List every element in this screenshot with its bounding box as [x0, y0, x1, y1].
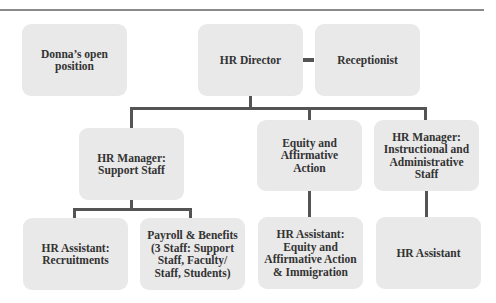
- connector-to-asst-recruit: [73, 208, 76, 218]
- node-label: HR Assistant: [396, 247, 460, 260]
- top-rule: [0, 9, 484, 11]
- connector-to-mgr-instr: [424, 107, 427, 120]
- node-label: HR Assistant: Recruitments: [41, 242, 109, 267]
- connector-to-payroll: [189, 208, 192, 218]
- connector-level2-horizontal: [130, 107, 427, 110]
- node-equity-affirmative-action: Equity and Affirmative Action: [257, 120, 362, 191]
- connector-level3-horizontal: [73, 208, 192, 211]
- node-donna-open-position: Donna’s open position: [22, 24, 127, 96]
- node-hr-assistant-equity: HR Assistant: Equity and Affirmative Act…: [258, 217, 363, 289]
- connector-instr-to-asst: [425, 191, 428, 217]
- node-receptionist: Receptionist: [315, 24, 420, 96]
- node-label: Receptionist: [337, 54, 398, 67]
- node-hr-assistant: HR Assistant: [376, 217, 481, 289]
- node-hr-assistant-recruitments: HR Assistant: Recruitments: [23, 218, 128, 290]
- node-hr-manager-instructional: HR Manager: Instructional and Administra…: [374, 120, 479, 191]
- node-label: Payroll & Benefits (3 Staff: Support Sta…: [147, 229, 238, 279]
- node-payroll-benefits: Payroll & Benefits (3 Staff: Support Sta…: [140, 218, 245, 290]
- node-label: HR Director: [220, 54, 281, 67]
- node-label: HR Manager: Support Staff: [97, 152, 166, 177]
- node-label: HR Assistant: Equity and Affirmative Act…: [264, 228, 356, 278]
- connector-to-equity: [308, 107, 311, 120]
- node-label: Donna’s open position: [41, 48, 108, 73]
- connector-equity-to-asst: [308, 191, 311, 217]
- node-label: Equity and Affirmative Action: [281, 137, 338, 175]
- node-hr-manager-support-staff: HR Manager: Support Staff: [79, 128, 184, 200]
- connector-director-receptionist: [303, 58, 314, 62]
- connector-to-mgr-support: [130, 107, 133, 128]
- node-label: HR Manager: Instructional and Administra…: [384, 131, 469, 181]
- node-hr-director: HR Director: [198, 24, 303, 96]
